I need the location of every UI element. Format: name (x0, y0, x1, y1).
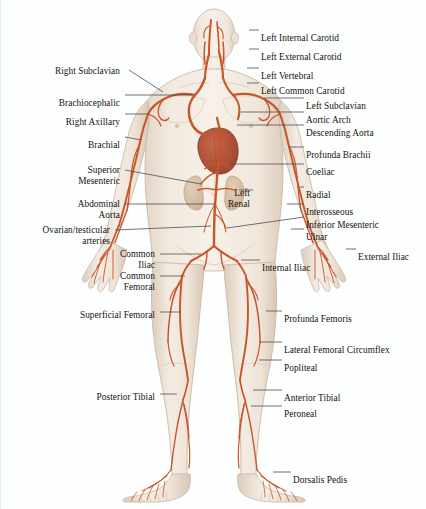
label-line: arteries (43, 236, 111, 247)
label-line: Right Subclavian (55, 66, 120, 77)
label-line: Posterior Tibial (97, 392, 155, 403)
label-left-internal-carotid: Left Internal Carotid (261, 33, 339, 44)
label-lateral-femoral-circumflex: Lateral Femoral Circumflex (284, 345, 390, 356)
label-line: Ulnar (306, 232, 327, 243)
label-interosseous: Interosseous (306, 207, 353, 218)
label-line: Radial (306, 190, 331, 201)
artery-left-vertebral (223, 42, 224, 64)
label-line: Interosseous (306, 207, 353, 218)
label-profunda-brachii: Profunda Brachii (306, 150, 371, 161)
label-brachiocephalic: Brachiocephalic (59, 98, 120, 109)
label-common-iliac: CommonIliac (120, 249, 155, 271)
label-line: Brachiocephalic (59, 98, 120, 109)
label-descending-aorta: Descending Aorta (306, 128, 374, 139)
label-line: Left Common Carotid (261, 86, 345, 97)
label-line: Renal (228, 199, 250, 210)
label-line: Abdominal (78, 199, 120, 210)
label-left-subclavian: Left Subclavian (306, 101, 366, 112)
label-radial: Radial (306, 190, 331, 201)
label-line: Left External Carotid (261, 52, 342, 63)
label-line: Ovarian/testicular (43, 225, 111, 236)
label-line: Peroneal (284, 409, 317, 420)
label-line: Aortic Arch (306, 115, 351, 126)
label-common-femoral: CommonFemoral (120, 271, 155, 293)
label-line: Descending Aorta (306, 128, 374, 139)
label-right-subclavian: Right Subclavian (55, 66, 120, 77)
label-posterior-tibial: Posterior Tibial (97, 392, 155, 403)
label-left-vertebral: Left Vertebral (261, 71, 313, 82)
label-line: Anterior Tibial (284, 393, 340, 404)
label-left-common-carotid: Left Common Carotid (261, 86, 345, 97)
label-abdominal-aorta: AbdominalAorta (78, 199, 120, 221)
label-line: Superficial Femoral (80, 310, 155, 321)
label-line: Popliteal (284, 363, 318, 374)
label-line: Left Internal Carotid (261, 33, 339, 44)
label-line: Left Vertebral (261, 71, 313, 82)
label-ulnar: Ulnar (306, 232, 327, 243)
label-right-axillary: Right Axillary (66, 117, 120, 128)
label-line: Right Axillary (66, 117, 120, 128)
label-anterior-tibial: Anterior Tibial (284, 393, 340, 404)
label-popliteal: Popliteal (284, 363, 318, 374)
label-line: Left Subclavian (306, 101, 366, 112)
label-line: Brachial (88, 140, 120, 151)
label-left-external-carotid: Left External Carotid (261, 52, 342, 63)
label-line: Femoral (120, 282, 155, 293)
label-line: Internal Iliac (262, 263, 310, 274)
label-inferior-mesenteric: Inferior Mesenteric (306, 220, 379, 231)
label-aortic-arch: Aortic Arch (306, 115, 351, 126)
label-peroneal: Peroneal (284, 409, 317, 420)
label-line: Profunda Femoris (284, 314, 352, 325)
label-internal-iliac: Internal Iliac (262, 263, 310, 274)
label-line: Aorta (78, 210, 120, 221)
label-line: Iliac (120, 260, 155, 271)
label-line: Superior (78, 165, 120, 176)
label-line: Inferior Mesenteric (306, 220, 379, 231)
label-line: Common (120, 249, 155, 260)
label-ovarian-testicular: Ovarian/testiculararteries (43, 225, 111, 247)
label-dorsalis-pedis: Dorsalis Pedis (293, 475, 347, 486)
label-line: Profunda Brachii (306, 150, 371, 161)
label-external-iliac: External Iliac (358, 252, 409, 263)
label-line: Left (228, 188, 250, 199)
label-superficial-femoral: Superficial Femoral (80, 310, 155, 321)
label-line: Lateral Femoral Circumflex (284, 345, 390, 356)
label-line: Dorsalis Pedis (293, 475, 347, 486)
label-brachial: Brachial (88, 140, 120, 151)
label-line: Coeliac (306, 167, 335, 178)
label-line: Mesenteric (78, 176, 120, 187)
label-superior-mesenteric: SuperiorMesenteric (78, 165, 120, 187)
label-left-renal: LeftRenal (228, 188, 250, 210)
label-line: Common (120, 271, 155, 282)
label-coeliac: Coeliac (306, 167, 335, 178)
label-line: External Iliac (358, 252, 409, 263)
leader-right-subclavian (129, 70, 163, 92)
label-profunda-femoris: Profunda Femoris (284, 314, 352, 325)
diagram-canvas: Right SubclavianBrachiocephalicRight Axi… (0, 0, 426, 509)
